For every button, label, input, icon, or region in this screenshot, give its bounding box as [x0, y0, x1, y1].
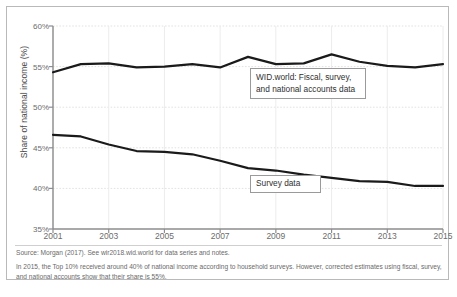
source-note: Source: Morgan (2017). See wir2018.wid.w… — [16, 248, 444, 257]
x-tick-label: 2009 — [266, 231, 285, 241]
series-line-wid-world — [53, 54, 443, 72]
series-line-survey — [53, 135, 443, 186]
x-tick-label: 2015 — [434, 231, 453, 241]
gridlines — [53, 26, 443, 188]
line-chart-svg — [7, 7, 450, 239]
callout-survey-data: Survey data — [250, 175, 321, 193]
x-tick-label: 2001 — [44, 231, 63, 241]
x-tick-label: 2011 — [322, 231, 340, 241]
x-tick-label: 2013 — [378, 231, 397, 241]
figure-panel: Share of national income (%) 35%40%45%50… — [6, 6, 449, 280]
x-tick-label: 2003 — [99, 231, 118, 241]
x-tick-label: 2005 — [155, 231, 174, 241]
callout-wid-world: WID.world: Fiscal, survey, and national … — [250, 68, 366, 99]
footer-divider — [15, 245, 442, 246]
plot-area: Share of national income (%) 35%40%45%50… — [7, 7, 450, 239]
explanatory-note: In 2015, the Top 10% received around 40%… — [16, 262, 444, 281]
footer-notes: Source: Morgan (2017). See wir2018.wid.w… — [16, 248, 444, 281]
x-tick-label: 2007 — [211, 231, 230, 241]
